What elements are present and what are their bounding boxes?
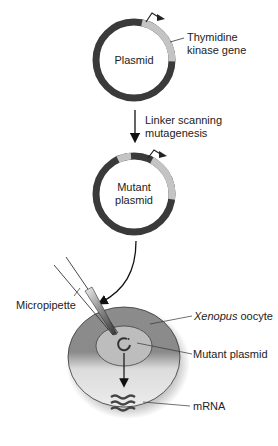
micropipette-label: Micropipette (16, 299, 76, 312)
oocyte-label-rest: oocyte (237, 310, 272, 322)
mutagenesis-label-line2: mutagenesis (145, 127, 222, 140)
gene-label-line1: Thymidine (187, 31, 246, 44)
mutant-plasmid-title-line1: Mutant (104, 181, 164, 194)
mutagenesis-label-line1: Linker scanning (145, 114, 222, 127)
mrna-label: mRNA (193, 400, 225, 413)
gene-label-line2: kinase gene (187, 44, 246, 57)
mutagenesis-label: Linker scanning mutagenesis (145, 114, 222, 140)
plasmid-label: Plasmid (108, 54, 160, 67)
oocyte-label: Xenopus oocyte (194, 310, 273, 323)
oocyte-label-species: Xenopus (194, 310, 237, 322)
gene-label: Thymidine kinase gene (187, 31, 246, 57)
injection-arrow-icon (102, 241, 136, 302)
mutant-plasmid-title: Mutant plasmid (104, 181, 164, 207)
mutant-plasmid-title-line2: plasmid (104, 194, 164, 207)
gene-leader-line (170, 38, 184, 42)
mutant-plasmid-label: Mutant plasmid (193, 348, 268, 361)
